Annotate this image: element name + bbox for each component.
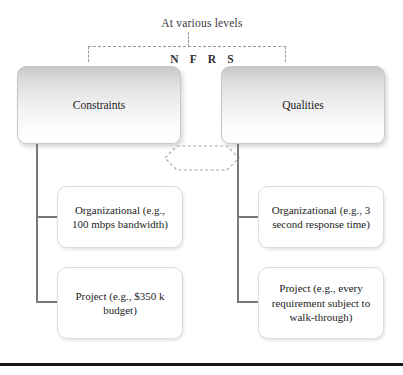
level-bracket-left-tick (88, 46, 89, 62)
connector-constraints-trunk (36, 144, 38, 302)
level-codes-label: N F R S (137, 53, 267, 65)
node-constraints: Constraints (17, 66, 181, 144)
connector-qualities-branch-2 (237, 301, 259, 303)
leaf-constraints-project-label: Project (e.g., $350 k budget) (67, 289, 173, 318)
node-qualities: Qualities (221, 66, 385, 144)
caption-stem-dashed-line (188, 32, 189, 47)
node-constraints-label: Constraints (73, 99, 125, 111)
top-caption: At various levels (112, 16, 292, 30)
leaf-constraints-project: Project (e.g., $350 k budget) (57, 267, 183, 339)
leaf-qualities-project: Project (e.g., every requirement subject… (258, 267, 384, 339)
leaf-constraints-organizational-label: Organizational (e.g., 100 mbps bandwidth… (67, 203, 173, 232)
node-qualities-label: Qualities (282, 99, 324, 111)
leaf-qualities-organizational: Organizational (e.g., 3 second response … (258, 186, 384, 248)
connector-qualities-branch-1 (237, 216, 259, 218)
connector-constraints-branch-1 (36, 216, 58, 218)
leaf-qualities-organizational-label: Organizational (e.g., 3 second response … (268, 203, 374, 232)
leaf-qualities-project-label: Project (e.g., every requirement subject… (268, 281, 374, 325)
diagram-canvas: At various levels N F R S Constraints Qu… (0, 0, 403, 375)
relation-double-arrow-icon (163, 142, 241, 174)
leaf-constraints-organizational: Organizational (e.g., 100 mbps bandwidth… (57, 186, 183, 248)
connector-constraints-branch-2 (36, 301, 58, 303)
level-bracket-right-tick (285, 46, 286, 62)
connector-qualities-trunk (237, 144, 239, 302)
level-bracket-horizontal (88, 46, 286, 47)
footer-rule (0, 363, 403, 366)
